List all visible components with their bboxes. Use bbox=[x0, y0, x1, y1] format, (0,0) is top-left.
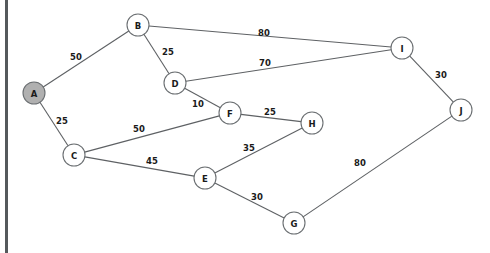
graph-node-d[interactable]: D bbox=[164, 72, 186, 94]
edge-weight-b-i: 80 bbox=[258, 28, 270, 38]
graph-edge-e-h bbox=[215, 128, 302, 173]
edge-weight-e-h: 35 bbox=[243, 143, 255, 153]
node-label-c: C bbox=[71, 151, 77, 161]
edge-weight-e-g: 30 bbox=[251, 192, 263, 202]
edge-weight-a-b: 50 bbox=[70, 52, 82, 62]
graph-edge-c-e bbox=[85, 157, 194, 176]
edge-weight-a-c: 25 bbox=[56, 116, 68, 126]
graph-edge-d-i bbox=[186, 50, 391, 82]
graph-edge-e-g bbox=[215, 183, 284, 218]
edges-layer bbox=[40, 26, 453, 218]
edge-weight-d-f: 10 bbox=[192, 99, 204, 109]
node-label-g: G bbox=[291, 219, 298, 229]
edge-weight-i-j: 30 bbox=[435, 70, 447, 80]
graph-node-c[interactable]: C bbox=[63, 144, 85, 166]
node-label-f: F bbox=[227, 109, 233, 119]
node-label-a: A bbox=[31, 89, 38, 99]
graph-svg: 50252580701050452535308030 ABCDEFGHIJ bbox=[0, 0, 490, 253]
edge-labels-layer: 50252580701050452535308030 bbox=[56, 28, 447, 202]
graph-edge-b-i bbox=[149, 26, 391, 47]
graph-node-i[interactable]: I bbox=[391, 37, 413, 59]
node-label-j: J bbox=[458, 106, 462, 116]
node-label-h: H bbox=[308, 119, 315, 129]
graph-node-g[interactable]: G bbox=[283, 212, 305, 234]
graph-node-b[interactable]: B bbox=[127, 14, 149, 36]
graph-node-h[interactable]: H bbox=[301, 112, 323, 134]
graph-node-f[interactable]: F bbox=[219, 102, 241, 124]
edge-weight-f-h: 25 bbox=[264, 107, 276, 117]
edge-weight-c-e: 45 bbox=[146, 156, 158, 166]
graph-node-e[interactable]: E bbox=[194, 167, 216, 189]
node-label-b: B bbox=[135, 21, 141, 31]
edge-weight-b-d: 25 bbox=[162, 47, 174, 57]
graph-edge-a-b bbox=[43, 31, 129, 87]
graph-edge-c-f bbox=[85, 116, 220, 152]
graph-node-j[interactable]: J bbox=[450, 99, 472, 121]
graph-node-a[interactable]: A bbox=[23, 82, 45, 104]
graph-edge-g-j bbox=[303, 116, 452, 217]
diagram-canvas: 50252580701050452535308030 ABCDEFGHIJ bbox=[0, 0, 490, 253]
node-label-e: E bbox=[202, 174, 208, 184]
edge-weight-c-f: 50 bbox=[133, 124, 145, 134]
node-label-i: I bbox=[400, 44, 403, 54]
nodes-layer: ABCDEFGHIJ bbox=[23, 14, 472, 234]
edge-weight-d-i: 70 bbox=[259, 58, 271, 68]
node-label-d: D bbox=[171, 79, 178, 89]
edge-weight-g-j: 80 bbox=[354, 158, 366, 168]
